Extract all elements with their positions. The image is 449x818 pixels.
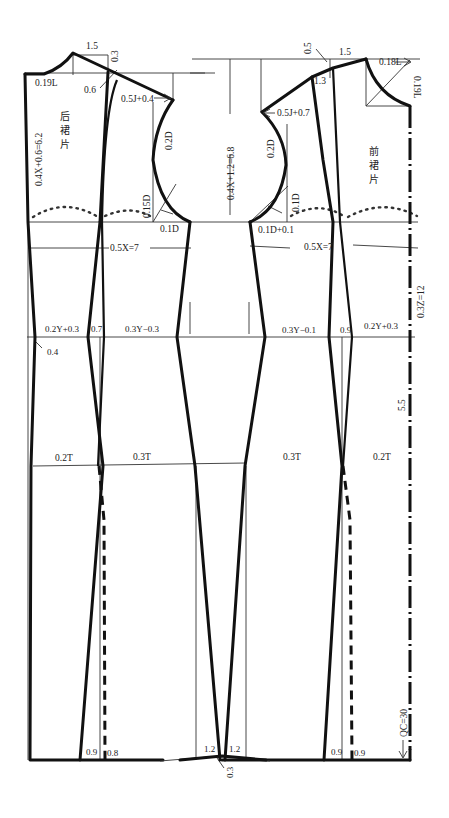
label-center-0-4X: 0.4X+1.2=6.8 [226,147,236,200]
label-hip-depth-5-5: 5.5 [397,399,407,411]
label-back-waist-0-3Y: 0.3Y−0.3 [125,324,160,334]
label-back-shoulder-1-5: 1.5 [86,41,98,51]
label-front-hip-0-3T: 0.3T [283,452,301,462]
label-total-length-QC: QC=30 [399,709,409,737]
label-back-waist-0-4: 0.4 [47,347,59,357]
label-front-waist-0-2Y: 0.2Y+0.3 [364,321,399,331]
back-piece-char-2: 裙 [60,124,70,136]
label-back-armhole-0-15D: 0.15D [142,194,152,218]
label-front-shoulder-0-5J: 0.5J+0.7 [277,108,310,118]
label-back-waist-0-2Y: 0.2Y+0.3 [45,324,80,334]
label-hem-back-0-9: 0.9 [86,747,98,757]
label-back-armhole-0-1D: 0.1D [160,224,179,234]
label-front-neck-0-19L: 0.19L [412,76,422,99]
label-front-waist-dart-0-9: 0.9 [340,325,352,335]
label-hem-center-0-3: 0.3 [225,766,235,778]
label-back-shoulder-0-5J: 0.5J+0.4 [121,94,154,104]
label-hem-front-0-9-a: 0.9 [331,747,343,757]
label-hem-center-1-2-right: 1.2 [229,744,240,754]
label-front-shoulder-0-5: 0.5 [303,42,313,54]
label-back-bust-0-5X: 0.5X=7 [110,243,139,253]
label-back-hip-0-2T: 0.2T [55,453,73,463]
back-piece-char-3: 片 [60,138,70,150]
label-waist-length-0-3Z: 0.3Z=12 [416,285,426,318]
back-piece-char-1: 后 [60,111,70,122]
label-hem-back-0-8: 0.8 [107,748,119,758]
label-front-armhole-0-2D: 0.2D [266,139,276,158]
front-piece-char-1: 前 [369,145,379,157]
pattern-diagram: 1.5 0.3 0.19L 0.6 0.5J+0.4 0.2D 0.4X+0.6… [0,0,449,818]
label-front-shoulder-1-5: 1.5 [339,47,351,57]
construction-lines [25,49,420,768]
label-hem-center-1-2-left: 1.2 [204,744,215,754]
pattern-svg: 1.5 0.3 0.19L 0.6 0.5J+0.4 0.2D 0.4X+0.6… [0,0,449,818]
arrow-down-icon [399,740,407,758]
bust-curves [33,207,417,217]
label-front-waist-0-3Y: 0.3Y−0.1 [282,325,316,335]
front-piece-char-2: 裙 [369,159,379,171]
label-back-armhole-0-2D: 0.2D [164,131,174,150]
front-piece-outline [222,59,410,760]
label-front-bust-0-5X: 0.5X=7 [304,242,333,252]
hem-center [160,756,270,761]
label-front-shoulder-1-3: 1.3 [314,76,326,86]
label-front-hip-0-2T: 0.2T [373,452,391,462]
label-front-armhole-0-1D-plus: 0.1D+0.1 [258,225,294,235]
label-front-armhole-0-1D: 0.1D [291,193,301,212]
label-back-waist-dart-0-7: 0.7 [91,324,103,334]
label-back-neck-0-19L: 0.19L [35,78,58,88]
back-piece-outline [25,53,220,760]
label-front-neck-0-18L: 0.18L [379,57,402,67]
front-piece-char-3: 片 [369,173,379,185]
label-hem-front-0-9-b: 0.9 [354,748,366,758]
label-back-length-0-4X: 0.4X+0.6=6.2 [34,133,44,186]
label-back-hip-0-3T: 0.3T [133,452,151,462]
label-back-dart-0-6: 0.6 [84,85,96,95]
label-back-shoulder-0-3: 0.3 [110,50,120,62]
